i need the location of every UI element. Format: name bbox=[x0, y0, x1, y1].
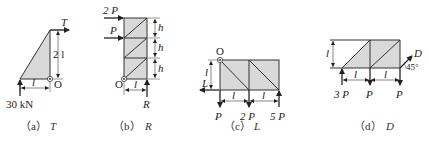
caption-c-var: L bbox=[253, 120, 260, 132]
label-h2: h bbox=[158, 41, 164, 53]
truss-fill bbox=[342, 40, 400, 68]
caption-d-tag: （d） bbox=[354, 120, 382, 132]
label-p: P bbox=[214, 110, 222, 122]
label-2l: 2 l bbox=[53, 48, 64, 60]
label-d: D bbox=[413, 47, 422, 59]
label-t: T bbox=[61, 16, 68, 28]
label-30kn: 30 kN bbox=[6, 98, 33, 110]
label-l-vert: l bbox=[326, 47, 329, 59]
label-p1: P bbox=[365, 88, 373, 100]
figure-a: T 2 l l O 30 kN bbox=[6, 16, 69, 110]
caption-c-tag: （c） bbox=[224, 120, 251, 132]
label-l: l bbox=[32, 76, 35, 88]
label-2p: 2 P bbox=[103, 4, 118, 16]
label-o: O bbox=[115, 78, 123, 90]
label-h3: h bbox=[158, 62, 164, 74]
caption-b-tag: （b） bbox=[113, 120, 141, 132]
truss-diagrams: T 2 l l O 30 kN 2 P P bbox=[0, 0, 429, 144]
label-l1: l bbox=[232, 89, 235, 101]
caption-b-var: R bbox=[144, 120, 152, 132]
label-l1: l bbox=[354, 68, 357, 80]
caption-a-var: T bbox=[50, 120, 57, 132]
label-o: O bbox=[216, 45, 224, 57]
label-p2: P bbox=[395, 88, 403, 100]
triangle-truss bbox=[20, 30, 50, 79]
figure-c: O l L l l P 2 P 5 P bbox=[200, 45, 285, 122]
label-angle: 45° bbox=[406, 62, 419, 72]
figure-b: 2 P P h h h O l R bbox=[103, 4, 164, 110]
caption-d-var: D bbox=[385, 120, 394, 132]
label-h1: h bbox=[158, 21, 164, 33]
figure-d: l l l 3 P P P D 45° bbox=[326, 40, 422, 100]
label-o: O bbox=[54, 78, 62, 90]
caption-a-tag: （a） bbox=[20, 120, 47, 132]
label-l2: l bbox=[262, 89, 265, 101]
label-l: l bbox=[134, 78, 137, 90]
label-l2: l bbox=[384, 68, 387, 80]
captions: （a） T （b） R （c） L （d） D bbox=[20, 120, 394, 132]
label-p: P bbox=[109, 24, 117, 36]
label-l-force: L bbox=[201, 77, 208, 89]
label-5p: 5 P bbox=[270, 110, 285, 122]
label-r: R bbox=[142, 98, 150, 110]
label-3p: 3 P bbox=[333, 88, 349, 100]
